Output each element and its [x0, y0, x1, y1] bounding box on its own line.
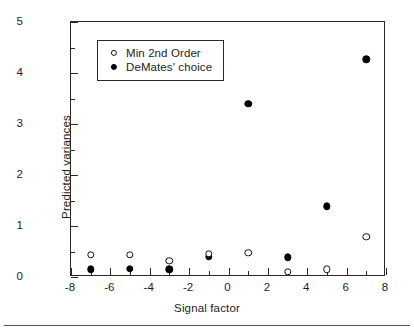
figure-canvas: Predicted variances Signal factor 012345…	[0, 0, 414, 334]
y-axis-tick-label: 1	[0, 219, 23, 231]
x-axis-tick-label: -8	[50, 281, 90, 293]
y-axis-tick	[71, 22, 78, 23]
data-point	[363, 56, 370, 63]
y-axis-minor-tick	[71, 99, 75, 100]
filled-circle-icon	[107, 60, 121, 74]
y-axis-minor-tick	[71, 201, 75, 202]
x-axis-tick	[71, 268, 72, 275]
data-point	[166, 257, 173, 264]
y-axis-tick	[71, 277, 78, 278]
data-point	[244, 100, 251, 107]
legend-entry-1: DeMates' choice	[107, 60, 212, 74]
y-axis-minor-tick	[71, 150, 75, 151]
page-divider-rule	[4, 325, 410, 326]
x-axis-tick-label: -4	[129, 281, 169, 293]
x-axis-minor-tick	[209, 271, 210, 275]
data-point	[87, 266, 94, 273]
x-axis-tick	[150, 268, 151, 275]
legend-label: DeMates' choice	[126, 61, 212, 73]
y-axis-tick	[71, 73, 78, 74]
y-axis-tick-label: 4	[0, 66, 23, 78]
x-axis-tick-label: 2	[247, 281, 287, 293]
data-point	[126, 251, 133, 258]
y-axis-tick-label: 0	[0, 270, 23, 282]
y-axis-tick-label: 3	[0, 117, 23, 129]
x-axis-minor-tick	[366, 271, 367, 275]
x-axis-tick-label: 8	[365, 281, 405, 293]
x-axis-tick	[347, 268, 348, 275]
y-axis-tick-label: 5	[0, 15, 23, 27]
data-point	[284, 268, 291, 275]
data-point	[363, 233, 370, 240]
y-axis-tick	[71, 175, 78, 176]
x-axis-tick-label: -6	[89, 281, 129, 293]
y-axis-tick-label: 2	[0, 168, 23, 180]
data-point	[126, 265, 133, 272]
y-axis-tick	[71, 226, 78, 227]
y-axis-tick	[71, 124, 78, 125]
x-axis-tick-label: 6	[326, 281, 366, 293]
data-point	[284, 253, 291, 260]
legend-box: Min 2nd Order DeMates' choice	[97, 40, 224, 81]
x-axis-tick	[268, 268, 269, 275]
x-axis-tick-label: 4	[286, 281, 326, 293]
data-point	[87, 251, 94, 258]
y-axis-minor-tick	[71, 252, 75, 253]
data-point	[323, 266, 330, 273]
legend-label: Min 2nd Order	[126, 47, 201, 59]
data-point	[323, 202, 330, 209]
x-axis-tick-label: 0	[208, 281, 248, 293]
x-axis-tick	[307, 268, 308, 275]
x-axis-tick	[189, 268, 190, 275]
y-axis-minor-tick	[71, 48, 75, 49]
x-axis-tick-label: -2	[168, 281, 208, 293]
x-axis-tick	[229, 268, 230, 275]
x-axis-minor-tick	[248, 271, 249, 275]
data-point	[244, 249, 251, 256]
legend-entry-0: Min 2nd Order	[107, 46, 212, 60]
x-axis-tick	[386, 268, 387, 275]
x-axis-title: Signal factor	[0, 302, 414, 314]
data-point	[166, 266, 173, 273]
x-axis-tick	[110, 268, 111, 275]
open-circle-icon	[107, 46, 121, 60]
